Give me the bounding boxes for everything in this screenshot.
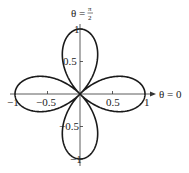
x-tick-label-neg1: −1	[7, 96, 19, 108]
x-axis-arrow-icon	[150, 92, 156, 97]
svg-text:θ =: θ =	[71, 7, 85, 19]
y-tick-label-05: 0.5	[63, 55, 77, 67]
theta-zero-label: θ = 0	[159, 88, 182, 100]
y-tick-label-neg05: −0.5	[59, 120, 79, 132]
x-tick-label-1: 1	[144, 96, 150, 108]
svg-text:π: π	[88, 5, 92, 13]
polar-rose-chart: −1 −0.5 0.5 1 1 0.5 −0.5 −1 θ = 0 θ = π …	[0, 0, 189, 173]
theta-pi-over-2-label: θ = π 2	[71, 5, 93, 22]
svg-text:2: 2	[88, 14, 92, 22]
x-tick-label-neg05: −0.5	[36, 96, 56, 108]
y-tick-label-1: 1	[74, 23, 80, 35]
y-tick-label-neg1: −1	[70, 153, 82, 165]
x-tick-label-05: 0.5	[106, 96, 120, 108]
